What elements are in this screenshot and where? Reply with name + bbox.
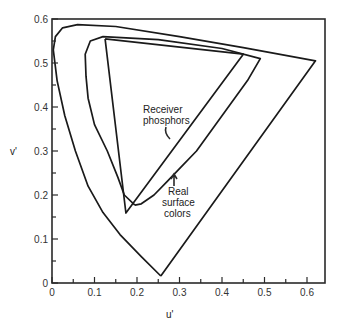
receiver-annotation-line2: phosphors (143, 115, 190, 126)
y-axis-label: v' (10, 146, 17, 157)
y-tick-label: 0.3 (34, 146, 48, 157)
series-spectrum-locus (53, 25, 315, 276)
x-axis-label: u' (166, 309, 174, 320)
axis-ticks: 00.10.20.30.40.50.600.10.20.30.40.50.6 (34, 14, 314, 298)
x-tick-label: 0.5 (258, 287, 272, 298)
y-tick-label: 0.2 (34, 190, 48, 201)
y-tick-label: 0.1 (34, 234, 48, 245)
plot-frame (52, 19, 325, 283)
x-tick-label: 0.3 (173, 287, 187, 298)
real-surface-annotation-line2: surface (162, 197, 195, 208)
real-surface-annotation-line1: Real (168, 186, 189, 197)
plot-area (52, 19, 325, 283)
receiver-pointer-icon (166, 127, 171, 139)
x-tick-label: 0.2 (130, 287, 144, 298)
y-tick-label: 0.6 (34, 14, 48, 25)
y-tick-label: 0.4 (34, 102, 48, 113)
y-tick-label: 0 (42, 278, 48, 289)
x-tick-label: 0.1 (88, 287, 102, 298)
receiver-annotation-line1: Receiver (143, 104, 183, 115)
x-tick-label: 0 (49, 287, 55, 298)
y-tick-label: 0.5 (34, 58, 48, 69)
real-surface-annotation-line3: colors (164, 208, 191, 219)
chromaticity-chart: 00.10.20.30.40.50.600.10.20.30.40.50.6 v… (0, 0, 342, 325)
x-tick-label: 0.4 (215, 287, 229, 298)
x-tick-label: 0.6 (300, 287, 314, 298)
